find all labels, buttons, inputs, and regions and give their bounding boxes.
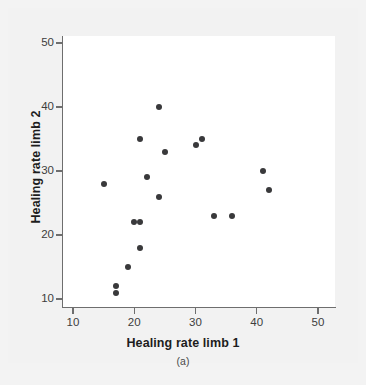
- x-tick-mark: [72, 308, 73, 314]
- x-axis-title: Healing rate limb 1: [0, 336, 366, 350]
- x-tick-label: 40: [239, 316, 275, 328]
- data-point: [260, 168, 266, 174]
- y-tick-mark: [56, 106, 62, 107]
- x-tick-mark: [195, 308, 196, 314]
- x-tick-label: 10: [55, 316, 91, 328]
- y-tick-mark: [56, 170, 62, 171]
- x-tick-label: 20: [116, 316, 152, 328]
- y-tick-mark: [56, 234, 62, 235]
- data-point: [199, 136, 205, 142]
- figure-caption: (a): [0, 355, 366, 367]
- x-tick-mark: [256, 308, 257, 314]
- x-tick-label: 50: [300, 316, 336, 328]
- data-point: [193, 142, 199, 148]
- x-tick-mark: [317, 308, 318, 314]
- y-tick-mark: [56, 298, 62, 299]
- data-point: [156, 104, 162, 110]
- x-axis-line: [62, 307, 336, 308]
- data-point: [113, 290, 119, 296]
- data-point: [156, 194, 162, 200]
- y-axis-line: [62, 36, 63, 308]
- y-tick-mark: [56, 42, 62, 43]
- data-point: [101, 181, 107, 187]
- x-tick-mark: [134, 308, 135, 314]
- scatter-plot-figure: 10203040501020304050 Healing rate limb 2…: [0, 0, 366, 385]
- plot-area: [63, 36, 335, 307]
- data-point: [144, 174, 150, 180]
- data-point: [211, 213, 217, 219]
- x-tick-label: 30: [178, 316, 214, 328]
- data-point: [162, 149, 168, 155]
- y-axis-title: Healing rate limb 2: [29, 47, 43, 287]
- y-tick-label: 10: [20, 292, 54, 304]
